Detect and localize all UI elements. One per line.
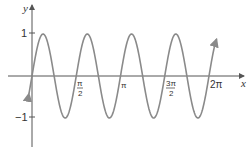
y-axis-label: y xyxy=(22,2,28,14)
x-tick-pi-half-num: π xyxy=(77,79,83,88)
x-tick-2pi: 2π xyxy=(210,79,223,90)
x-axis-label: x xyxy=(240,77,246,89)
sine-graph: y x 1 −1 π 2 π 3π 2 2π xyxy=(0,0,251,147)
x-tick-pi-half-den: 2 xyxy=(78,89,83,98)
x-tick-3pi-half-num: 3π xyxy=(166,79,176,88)
x-tick-pi: π xyxy=(121,81,127,90)
x-tick-3pi-half-den: 2 xyxy=(169,89,174,98)
y-tick-label-1: 1 xyxy=(21,27,27,39)
y-tick-label-neg1: −1 xyxy=(15,111,28,123)
